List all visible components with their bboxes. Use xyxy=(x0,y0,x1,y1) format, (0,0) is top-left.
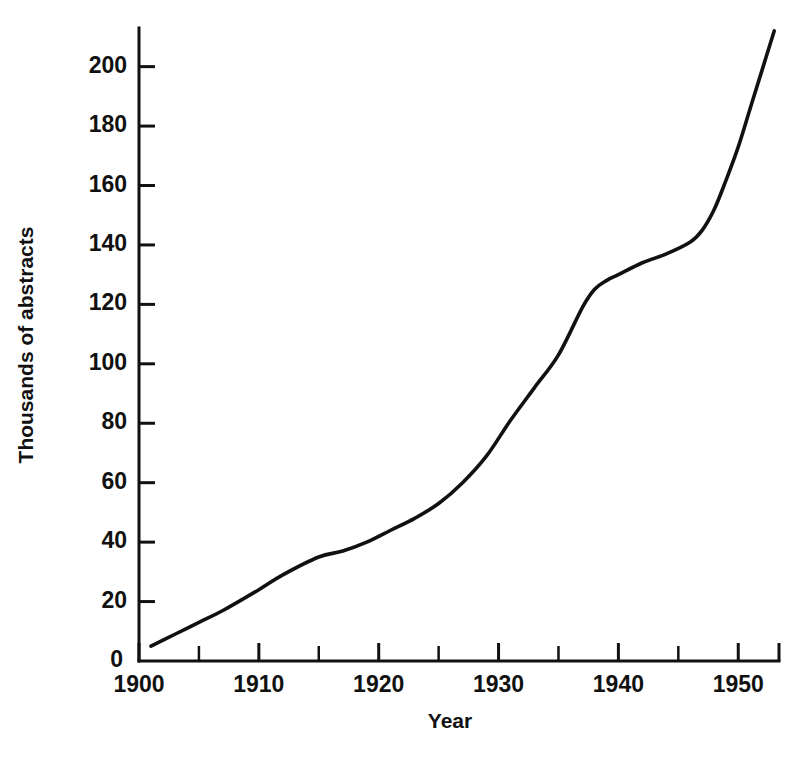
y-tick-label: 0 xyxy=(110,646,123,672)
x-tick-label: 1920 xyxy=(353,671,404,697)
axes xyxy=(139,28,779,661)
line-chart-svg: 020406080100120140160180200 190019101920… xyxy=(0,0,809,767)
y-tick-label: 100 xyxy=(89,349,127,375)
x-tick-label: 1910 xyxy=(233,671,284,697)
y-tick-label: 80 xyxy=(101,408,127,434)
y-tick-label: 120 xyxy=(89,289,127,315)
y-axis-ticks xyxy=(139,67,155,602)
y-tick-label: 180 xyxy=(89,111,127,137)
y-tick-label: 200 xyxy=(89,52,127,78)
x-tick-label: 1930 xyxy=(473,671,524,697)
y-tick-label: 60 xyxy=(101,468,127,494)
y-tick-label: 140 xyxy=(89,230,127,256)
data-line-chemical-abstracts xyxy=(151,31,774,646)
x-axis-title: Year xyxy=(428,709,472,732)
y-tick-label: 160 xyxy=(89,171,127,197)
x-tick-label: 1950 xyxy=(713,671,764,697)
x-tick-label: 1900 xyxy=(113,671,164,697)
x-axis-tick-labels: 190019101920193019401950 xyxy=(113,671,763,697)
y-tick-label: 20 xyxy=(101,587,127,613)
y-axis-tick-labels: 020406080100120140160180200 xyxy=(89,52,127,672)
x-tick-label: 1940 xyxy=(593,671,644,697)
y-axis-title: Thousands of abstracts xyxy=(14,227,37,464)
chart-figure: 020406080100120140160180200 190019101920… xyxy=(0,0,809,767)
y-tick-label: 40 xyxy=(101,527,127,553)
x-axis-ticks xyxy=(139,643,779,661)
data-series-group xyxy=(151,31,774,646)
